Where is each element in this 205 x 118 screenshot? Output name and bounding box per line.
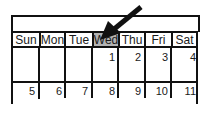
arrow-pointing-icon — [0, 0, 205, 118]
